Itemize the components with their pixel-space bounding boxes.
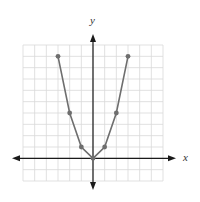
data-point (91, 156, 96, 161)
data-point (126, 54, 131, 59)
x-axis-label: x (183, 151, 188, 163)
parabola-plot (0, 0, 200, 202)
x-axis-left-arrow-icon (12, 155, 20, 161)
y-axis-label: y (90, 14, 95, 26)
data-point (114, 111, 119, 116)
data-point (79, 145, 84, 150)
y-axis-up-arrow-icon (90, 34, 96, 42)
x-axis-right-arrow-icon (168, 155, 176, 161)
data-point (67, 111, 72, 116)
data-point (56, 54, 61, 59)
data-point (102, 145, 107, 150)
y-axis-down-arrow-icon (90, 182, 96, 190)
